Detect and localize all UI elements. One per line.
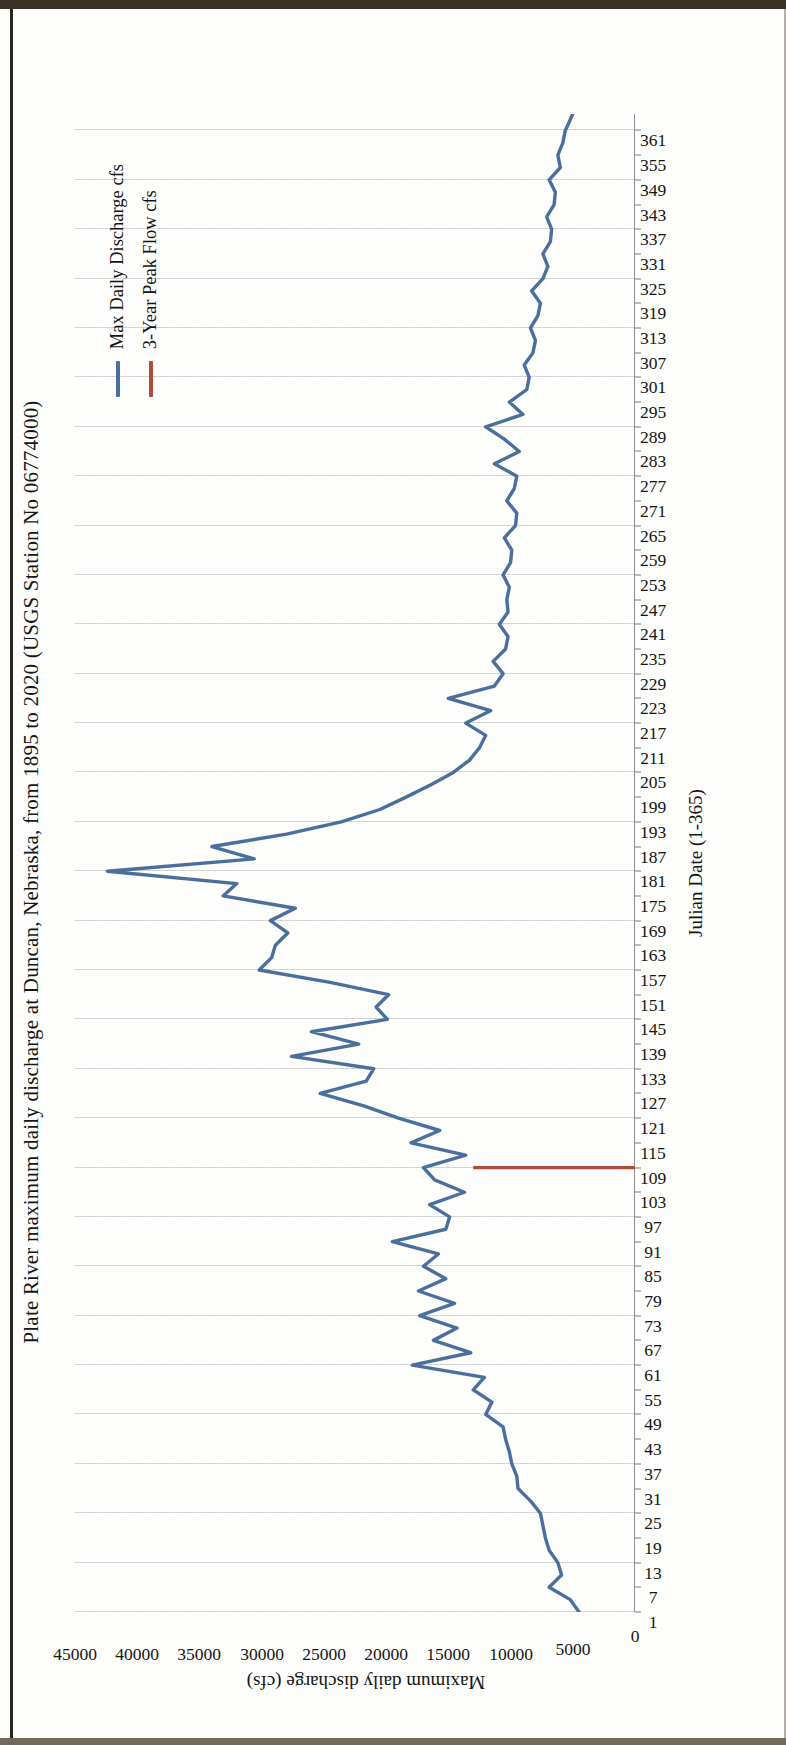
x-tick-mark bbox=[635, 1315, 641, 1316]
y-tick-label: 10000 bbox=[489, 1643, 533, 1664]
x-tick-label: 175 bbox=[640, 896, 666, 917]
x-tick-label: 223 bbox=[640, 698, 666, 719]
x-tick-label: 25 bbox=[644, 1513, 662, 1534]
x-tick-label: 103 bbox=[640, 1192, 666, 1213]
x-tick-label: 139 bbox=[640, 1044, 666, 1065]
x-tick-label: 61 bbox=[644, 1365, 662, 1386]
x-tick-label: 313 bbox=[640, 328, 666, 349]
x-tick-mark bbox=[635, 1612, 641, 1613]
page-top-edge bbox=[0, 0, 786, 9]
x-tick-label: 199 bbox=[640, 797, 666, 818]
x-tick-label: 109 bbox=[640, 1168, 666, 1189]
x-tick-label: 49 bbox=[644, 1414, 662, 1435]
x-tick-label: 337 bbox=[640, 229, 666, 250]
x-tick-label: 265 bbox=[640, 526, 666, 547]
x-tick-label: 43 bbox=[644, 1439, 662, 1460]
x-tick-label: 55 bbox=[644, 1390, 662, 1411]
x-tick-label: 295 bbox=[640, 402, 666, 423]
x-tick-mark bbox=[635, 1340, 641, 1341]
x-tick-label: 67 bbox=[644, 1340, 662, 1361]
x-tick-mark bbox=[635, 1587, 641, 1588]
x-tick-mark bbox=[635, 1291, 641, 1292]
x-tick-label: 241 bbox=[640, 624, 666, 645]
x-tick-label: 361 bbox=[640, 130, 666, 151]
x-tick-label: 187 bbox=[640, 847, 666, 868]
x-tick-label: 259 bbox=[640, 550, 666, 571]
x-tick-label: 97 bbox=[644, 1217, 662, 1238]
legend-item-1[interactable]: Max Daily Discharge cfs bbox=[107, 164, 128, 397]
x-tick-label: 355 bbox=[640, 155, 666, 176]
x-axis-ticks: 1713192531374349556167737985919710310911… bbox=[641, 114, 681, 1612]
x-tick-mark bbox=[635, 1365, 641, 1366]
x-tick-label: 19 bbox=[644, 1538, 662, 1559]
x-tick-label: 169 bbox=[640, 921, 666, 942]
legend-item-2[interactable]: 3-Year Peak Flow cfs bbox=[140, 164, 161, 397]
x-tick-label: 217 bbox=[640, 723, 666, 744]
x-tick-label: 235 bbox=[640, 649, 666, 670]
x-tick-label: 145 bbox=[640, 1019, 666, 1040]
y-tick-label: 0 bbox=[631, 1626, 640, 1647]
x-tick-label: 193 bbox=[640, 822, 666, 843]
x-tick-label: 7 bbox=[649, 1587, 658, 1608]
x-tick-label: 289 bbox=[640, 427, 666, 448]
y-tick-label: 20000 bbox=[364, 1643, 408, 1664]
chart-legend: Max Daily Discharge cfs3-Year Peak Flow … bbox=[107, 164, 161, 397]
x-tick-mark bbox=[635, 1463, 641, 1464]
x-tick-mark bbox=[635, 1562, 641, 1563]
x-tick-label: 307 bbox=[640, 353, 666, 374]
x-tick-mark bbox=[635, 1389, 641, 1390]
x-tick-mark bbox=[635, 1537, 641, 1538]
x-tick-label: 85 bbox=[644, 1266, 662, 1287]
x-tick-label: 277 bbox=[640, 476, 666, 497]
x-tick-label: 343 bbox=[640, 205, 666, 226]
x-tick-label: 157 bbox=[640, 970, 666, 991]
x-tick-label: 283 bbox=[640, 451, 666, 472]
x-tick-label: 121 bbox=[640, 1118, 666, 1139]
x-tick-label: 133 bbox=[640, 1069, 666, 1090]
y-tick-label: 35000 bbox=[178, 1643, 222, 1664]
x-tick-label: 181 bbox=[640, 871, 666, 892]
x-tick-label: 253 bbox=[640, 575, 666, 596]
x-tick-mark bbox=[635, 1439, 641, 1440]
x-axis-title: Julian Date (1-365) bbox=[685, 114, 707, 1612]
series-line-max-daily-discharge bbox=[107, 114, 579, 1612]
x-tick-label: 127 bbox=[640, 1093, 666, 1114]
y-tick-label: 5000 bbox=[555, 1639, 590, 1660]
x-tick-mark bbox=[635, 1513, 641, 1514]
x-tick-label: 319 bbox=[640, 303, 666, 324]
x-tick-label: 163 bbox=[640, 945, 666, 966]
x-tick-label: 151 bbox=[640, 995, 666, 1016]
x-tick-label: 229 bbox=[640, 674, 666, 695]
x-tick-label: 349 bbox=[640, 180, 666, 201]
y-tick-label: 15000 bbox=[426, 1643, 470, 1664]
x-tick-label: 115 bbox=[640, 1143, 666, 1164]
x-tick-label: 325 bbox=[640, 279, 666, 300]
x-tick-label: 1 bbox=[649, 1612, 658, 1633]
y-tick-label: 25000 bbox=[302, 1643, 346, 1664]
chart-stage: Plate River maximum daily discharge at D… bbox=[13, 14, 773, 1730]
y-tick-label: 45000 bbox=[53, 1643, 97, 1664]
y-tick-label: 30000 bbox=[240, 1643, 284, 1664]
legend-label: 3-Year Peak Flow cfs bbox=[140, 190, 161, 349]
y-tick-label: 40000 bbox=[115, 1643, 159, 1664]
x-tick-label: 301 bbox=[640, 377, 666, 398]
legend-label: Max Daily Discharge cfs bbox=[107, 164, 128, 349]
scanned-page: Plate River maximum daily discharge at D… bbox=[0, 0, 786, 1745]
x-tick-label: 73 bbox=[644, 1316, 662, 1337]
x-tick-mark bbox=[635, 1414, 641, 1415]
x-tick-label: 331 bbox=[640, 254, 666, 275]
y-axis-title: Maximum daily discharge (cfs) bbox=[86, 1671, 646, 1693]
legend-color-swatch bbox=[149, 361, 153, 397]
x-tick-mark bbox=[635, 1241, 641, 1242]
x-tick-label: 247 bbox=[640, 600, 666, 621]
x-tick-mark bbox=[635, 1266, 641, 1267]
x-tick-label: 205 bbox=[640, 772, 666, 793]
x-tick-label: 91 bbox=[644, 1242, 662, 1263]
chart-title: Plate River maximum daily discharge at D… bbox=[19, 14, 44, 1730]
rotated-chart: Plate River maximum daily discharge at D… bbox=[13, 14, 773, 1730]
x-tick-label: 13 bbox=[644, 1563, 662, 1584]
x-tick-label: 37 bbox=[644, 1464, 662, 1485]
legend-color-swatch bbox=[116, 361, 120, 397]
x-tick-label: 79 bbox=[644, 1291, 662, 1312]
x-tick-label: 31 bbox=[644, 1489, 662, 1510]
